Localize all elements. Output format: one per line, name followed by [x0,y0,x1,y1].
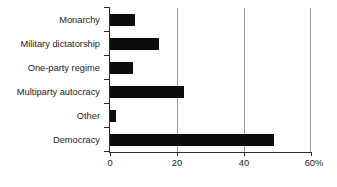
y-axis-tick-6 [104,151,109,152]
x-axis-label-0: 0 [107,158,112,168]
x-axis-tick-60 [311,152,312,156]
x-axis-tick-20 [177,152,178,156]
x-axis-label-60: 60% [305,158,324,168]
bar-other [110,110,116,122]
y-axis-tick-3 [104,79,109,80]
bar-monarchy [110,14,135,26]
y-axis-tick-5 [104,127,109,128]
category-axis-labels: Monarchy Military dictatorship One-party… [0,8,104,152]
category-label-one-party-regime: One-party regime [0,56,100,80]
y-axis-tick-1 [104,31,109,32]
category-label-monarchy: Monarchy [0,8,100,32]
category-label-other: Other [0,104,100,128]
bar-military-dictatorship [110,38,159,50]
x-axis-line [109,152,312,153]
bar-multiparty-autocracy [110,86,184,98]
bar-democracy [110,134,274,146]
x-axis-label-40: 40 [239,158,249,168]
x-axis-tick-40 [244,152,245,156]
x-axis-tick-0 [110,152,111,156]
category-label-military-dictatorship: Military dictatorship [0,32,100,56]
plot-area [110,8,311,152]
bar-chart: Monarchy Military dictatorship One-party… [0,0,337,187]
y-axis-line [109,7,110,153]
gridline-60 [310,8,311,152]
x-axis-label-20: 20 [172,158,182,168]
gridline-40 [244,8,245,152]
bar-one-party-regime [110,62,133,74]
y-axis-tick-4 [104,103,109,104]
y-axis-tick-0 [104,7,109,8]
gridline-20 [177,8,178,152]
y-axis-tick-2 [104,55,109,56]
category-label-multiparty-autocracy: Multiparty autocracy [0,80,100,104]
category-label-democracy: Democracy [0,128,100,152]
